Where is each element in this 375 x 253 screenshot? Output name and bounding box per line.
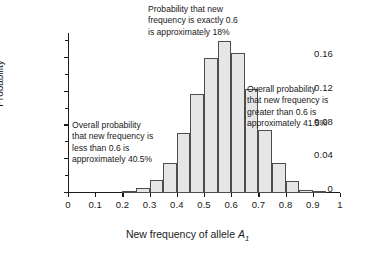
x-tick-label: 0.3	[143, 199, 157, 210]
annotation-less-than-0-6: Overall probability that new frequency i…	[72, 120, 153, 165]
histogram-bar	[286, 181, 300, 193]
x-tick-label: 0	[65, 199, 70, 210]
x-axis-label-prefix: New frequency of allele	[126, 228, 238, 240]
x-tick	[122, 193, 123, 197]
histogram-figure: Probability 00.040.080.120.1600.10.20.30…	[0, 0, 375, 253]
histogram-bar	[163, 163, 177, 193]
annotation-exactly-0-6: Probability that new frequency is exactl…	[148, 4, 238, 38]
annotation-greater-than-0-6: Overall probability that new frequency i…	[247, 84, 328, 129]
y-tick-label: 0.04	[314, 149, 333, 160]
histogram-bar	[231, 53, 245, 193]
histogram-bar	[218, 41, 232, 193]
x-tick-label: 0.7	[252, 199, 266, 210]
histogram-bar	[313, 191, 327, 193]
x-axis-label-subscript: 1	[245, 234, 249, 243]
x-tick	[258, 193, 259, 197]
histogram-bar	[258, 130, 272, 193]
x-tick-label: 0.8	[279, 199, 293, 210]
y-tick	[64, 91, 68, 92]
x-tick	[68, 193, 69, 197]
x-tick	[204, 193, 205, 197]
x-tick	[340, 193, 341, 197]
y-tick-minor	[65, 40, 68, 41]
x-tick	[150, 193, 151, 197]
x-tick-label: 0.1	[88, 199, 102, 210]
x-tick	[95, 193, 96, 197]
y-tick-label: 0	[328, 183, 333, 194]
x-tick-label: 0.6	[224, 199, 238, 210]
x-tick	[286, 193, 287, 197]
y-tick	[64, 57, 68, 58]
y-tick	[64, 124, 68, 125]
histogram-bar	[136, 188, 150, 193]
x-tick	[231, 193, 232, 197]
x-tick	[177, 193, 178, 197]
y-tick-minor	[65, 141, 68, 142]
y-tick-minor	[65, 175, 68, 176]
histogram-bar	[177, 133, 191, 193]
x-tick-label: 0.4	[170, 199, 184, 210]
histogram-bar	[204, 58, 218, 193]
histogram-bar	[150, 180, 164, 193]
x-tick-label: 0.2	[116, 199, 130, 210]
x-tick	[313, 193, 314, 197]
y-tick-label: 0.16	[314, 48, 333, 59]
histogram-bar	[122, 191, 136, 193]
x-axis-label-allele: A	[238, 228, 245, 240]
y-tick-minor	[65, 74, 68, 75]
y-axis-label: Probability	[0, 60, 5, 107]
x-tick-label: 1	[337, 199, 342, 210]
x-axis-label: New frequency of allele A1	[0, 228, 375, 243]
x-tick-label: 0.5	[197, 199, 211, 210]
y-tick-minor	[65, 108, 68, 109]
histogram-bar	[272, 163, 286, 193]
x-tick-label: 0.9	[306, 199, 320, 210]
y-tick	[64, 158, 68, 159]
histogram-bar	[299, 190, 313, 193]
histogram-bar	[190, 94, 204, 193]
